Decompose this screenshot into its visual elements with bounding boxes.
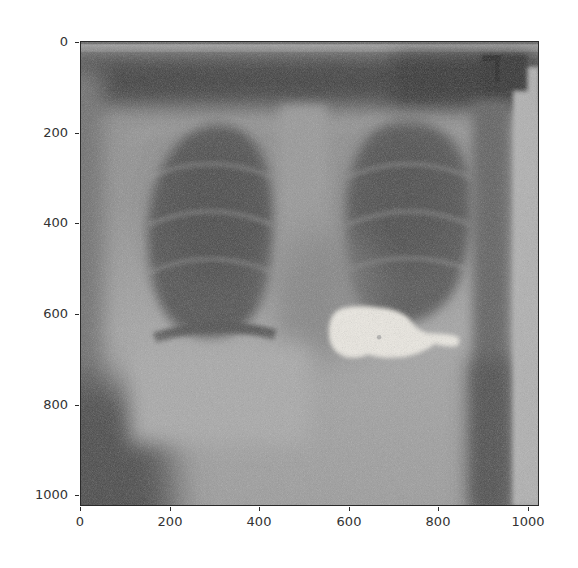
x-tick-mark	[528, 507, 529, 511]
x-axis-tick-label: 200	[158, 514, 183, 529]
y-tick-mark	[75, 133, 79, 134]
y-axis-tick-label: 0	[0, 34, 68, 50]
y-tick-mark	[75, 495, 79, 496]
x-tick-mark	[438, 507, 439, 511]
y-tick-mark	[75, 223, 79, 224]
y-axis-tick-label: 800	[0, 397, 68, 413]
x-tick-mark	[259, 507, 260, 511]
y-tick-mark	[75, 405, 79, 406]
x-tick-mark	[170, 507, 171, 511]
y-axis-tick-label: 600	[0, 306, 68, 322]
chest-xray-image	[81, 42, 538, 505]
plot-area	[80, 41, 539, 506]
x-axis-tick-label: 600	[337, 514, 362, 529]
y-tick-mark	[75, 42, 79, 43]
y-axis-tick-label: 400	[0, 215, 68, 231]
x-axis-tick-label: 1000	[511, 514, 544, 529]
y-tick-mark	[75, 314, 79, 315]
x-axis-tick-label: 800	[426, 514, 451, 529]
x-tick-mark	[349, 507, 350, 511]
y-axis-tick-label: 1000	[0, 487, 68, 503]
y-axis-tick-label: 200	[0, 125, 68, 141]
matplotlib-figure: 0 200 400 600 800 1000 0 200 400 600 800…	[0, 0, 578, 568]
x-axis-tick-label: 0	[76, 514, 84, 529]
x-axis-tick-label: 400	[247, 514, 272, 529]
film-grain-overlay	[81, 42, 538, 505]
x-tick-mark	[80, 507, 81, 511]
